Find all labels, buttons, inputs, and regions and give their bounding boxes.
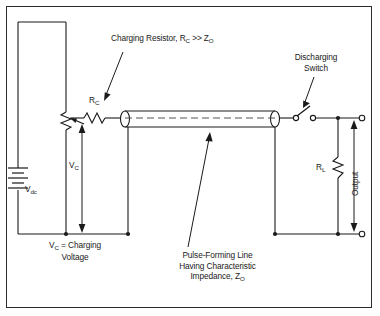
discharging-switch-leader <box>303 77 314 108</box>
charging-resistor-label-main: Charging Resistor, R <box>111 33 186 43</box>
vc-caption-line2: Voltage <box>25 252 125 263</box>
pfl-caption-line3: Impedance, ZO <box>145 271 290 283</box>
vc-arrow-label-sub: C <box>74 164 78 171</box>
pfl-caption-impedance: Impedance, Z <box>190 271 240 281</box>
variable-resistor-icon <box>61 112 71 130</box>
charging-resistor-label: Charging Resistor, RC >> ZO <box>111 33 214 45</box>
potentiometer-wiper-icon <box>70 118 84 124</box>
pulse-line-ground-leads <box>128 127 362 234</box>
pfl-caption-line2: Having Characteristic <box>145 261 290 272</box>
vc-measure-arrow <box>79 124 86 233</box>
vc-caption: VC = Charging Voltage <box>25 240 125 262</box>
vc-caption-sub: C <box>55 244 59 251</box>
vc-caption-rest: = Charging <box>59 240 101 250</box>
load-resistor-icon <box>333 157 343 178</box>
rc-label: RC <box>89 95 99 107</box>
pfl-caption-line1: Pulse-Forming Line <box>145 250 290 261</box>
pulse-forming-line-caption: Pulse-Forming Line Having Characteristic… <box>145 250 290 283</box>
vdc-label: Vdc <box>25 184 37 196</box>
output-label: Output <box>350 172 361 196</box>
charging-resistor-label-mid: >> Z <box>190 33 209 43</box>
charging-resistor-label-sub2: O <box>209 37 214 44</box>
rl-label: RL <box>316 162 325 174</box>
discharging-switch-line1: Discharging <box>280 52 352 63</box>
pulse-forming-line <box>121 111 280 127</box>
discharging-switch-caption: Discharging Switch <box>280 52 352 73</box>
discharging-switch-icon[interactable] <box>293 106 315 121</box>
vc-arrow-label: VC <box>69 160 79 172</box>
vc-caption-v: V <box>49 240 54 250</box>
pfl-caption-sub: O <box>240 275 245 282</box>
charging-resistor-leader <box>104 52 123 101</box>
vdc-label-sub: dc <box>30 188 36 195</box>
vc-caption-line1: VC = Charging <box>25 240 125 252</box>
figure-root: Charging Resistor, RC >> ZO RC Vdc VC VC… <box>0 0 380 316</box>
discharging-switch-line2: Switch <box>280 63 352 74</box>
pulse-forming-line-leader <box>188 132 213 247</box>
source-loop-wires <box>18 22 128 234</box>
rl-label-sub: L <box>322 166 325 173</box>
rc-label-sub: C <box>95 99 99 106</box>
charging-resistor-label-sub1: C <box>186 37 190 44</box>
